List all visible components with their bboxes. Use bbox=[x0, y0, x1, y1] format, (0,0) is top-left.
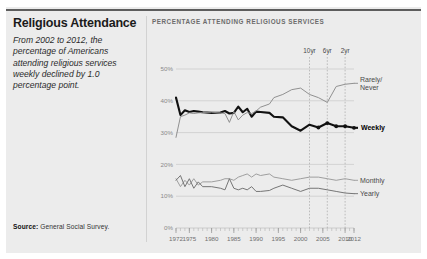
series-point bbox=[325, 121, 329, 125]
series-line-rarely-never bbox=[176, 83, 354, 137]
left-text-panel: Religious Attendance From 2002 to 2012, … bbox=[13, 16, 141, 242]
series-point bbox=[317, 126, 321, 130]
card-margin-right bbox=[421, 0, 427, 259]
source-label: Source: bbox=[13, 223, 38, 230]
y-tick-label: 10% bbox=[161, 192, 174, 199]
series-point bbox=[334, 124, 338, 128]
series-label-weekly: Weekly bbox=[361, 124, 385, 132]
card-margin-bottom bbox=[0, 253, 427, 259]
series-label-monthly: Monthly bbox=[360, 177, 385, 185]
source-value: General Social Survey. bbox=[40, 223, 109, 230]
y-tick-label: 30% bbox=[161, 129, 174, 136]
x-tick-label: 2000 bbox=[294, 235, 308, 242]
line-chart: 0%10%20%30%40%50%19721975198019851990199… bbox=[152, 16, 418, 242]
series-label-rarely-never: Rarely/ bbox=[360, 76, 382, 84]
y-tick-label: 20% bbox=[161, 161, 174, 168]
card-margin-left bbox=[0, 0, 6, 259]
y-tick-label: 40% bbox=[161, 97, 174, 104]
infographic-card: Religious Attendance From 2002 to 2012, … bbox=[0, 0, 427, 259]
annotation-label: 2yr bbox=[341, 47, 351, 55]
card-margin-top bbox=[0, 0, 427, 7]
series-point bbox=[343, 124, 347, 128]
top-rule-divider bbox=[6, 9, 421, 11]
chart-panel: PERCENTAGE ATTENDING RELIGIOUS SERVICES … bbox=[152, 16, 418, 242]
series-label-rarely-never-2: Never bbox=[360, 84, 379, 91]
vertical-divider bbox=[146, 16, 147, 242]
x-tick-label: 1972 bbox=[169, 235, 183, 242]
source-note: Source: General Social Survey. bbox=[13, 223, 109, 230]
x-tick-label: 2012 bbox=[347, 235, 361, 242]
page-description: From 2002 to 2012, the percentage of Ame… bbox=[13, 35, 141, 91]
annotation-label: 10yr bbox=[303, 47, 316, 55]
x-tick-label: 1980 bbox=[205, 235, 219, 242]
x-tick-label: 2005 bbox=[316, 235, 330, 242]
page-title: Religious Attendance bbox=[13, 16, 141, 30]
y-tick-label: 50% bbox=[161, 65, 174, 72]
x-tick-label: 1975 bbox=[182, 235, 196, 242]
series-label-yearly: Yearly bbox=[360, 190, 380, 198]
y-tick-label: 0% bbox=[164, 224, 173, 231]
x-tick-label: 1990 bbox=[249, 235, 263, 242]
x-tick-label: 1985 bbox=[227, 235, 241, 242]
x-tick-label: 1995 bbox=[271, 235, 285, 242]
annotation-label: 6yr bbox=[323, 47, 333, 55]
chart-svg: 0%10%20%30%40%50%19721975198019851990199… bbox=[152, 16, 418, 242]
